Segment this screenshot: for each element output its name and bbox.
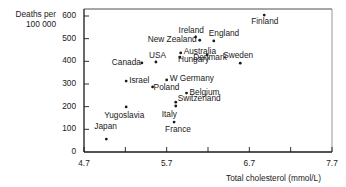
scatter-chart: Deaths per 100 000 0100200300400500600 4… xyxy=(0,0,346,187)
point-label: Italy xyxy=(162,110,177,119)
x-axis-label: Total cholesterol (mmol/L) xyxy=(226,173,321,183)
data-point xyxy=(105,138,108,141)
point-label: Finland xyxy=(251,17,278,26)
point-label: Switzerland xyxy=(178,94,221,103)
y-tick-label: 600 xyxy=(52,10,76,20)
y-tick-label: 300 xyxy=(52,78,76,88)
data-point xyxy=(212,40,215,43)
y-tick-label: 200 xyxy=(52,101,76,111)
data-point xyxy=(174,105,177,108)
y-axis-label: Deaths per 100 000 xyxy=(0,9,56,29)
point-label: USA xyxy=(149,51,166,60)
y-axis-label-line2: 100 000 xyxy=(0,19,56,29)
point-label: England xyxy=(209,29,239,38)
y-tick-label: 400 xyxy=(52,55,76,65)
data-point xyxy=(155,61,158,64)
x-tick-label: 7.7 xyxy=(320,158,344,168)
point-label: Canada xyxy=(112,58,141,67)
point-label: Israel xyxy=(129,76,149,85)
data-point xyxy=(174,101,177,104)
data-point xyxy=(198,39,201,42)
data-point xyxy=(165,79,168,82)
data-point xyxy=(173,121,176,124)
data-point xyxy=(125,105,128,108)
point-label: Japan xyxy=(94,122,117,131)
x-tick-label: 5.7 xyxy=(155,158,179,168)
x-tick-label: 4.7 xyxy=(72,158,96,168)
y-tick-label: 0 xyxy=(52,146,76,156)
y-tick-label: 500 xyxy=(52,33,76,43)
point-label: New Zealand xyxy=(148,35,197,44)
data-point xyxy=(239,62,242,65)
point-label: Denmark xyxy=(193,53,227,62)
point-label: France xyxy=(165,125,191,134)
y-axis-label-line1: Deaths per xyxy=(0,9,56,19)
x-tick-label: 6.7 xyxy=(237,158,261,168)
point-label: Yugoslavia xyxy=(104,111,144,120)
y-tick-label: 100 xyxy=(52,123,76,133)
point-label: Sweden xyxy=(223,51,253,60)
point-label: Poland xyxy=(154,83,180,92)
data-point xyxy=(125,80,128,83)
